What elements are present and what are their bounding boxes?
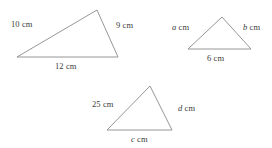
triangle-3-right-side-unit: cm — [182, 103, 195, 113]
triangle-2-left-side-label: a cm — [172, 22, 189, 32]
triangle-3-outline — [107, 86, 172, 130]
triangle-2-left-side-unit: cm — [176, 22, 189, 32]
triangle-3-base-label: c cm — [131, 134, 148, 144]
triangle-2-right-side-label: b cm — [243, 22, 260, 32]
triangle-1-right-side-label: 9 cm — [116, 20, 133, 30]
triangles-svg — [0, 0, 272, 148]
triangle-1-left-side-label: 10 cm — [11, 19, 33, 29]
figure-canvas: 10 cm 9 cm 12 cm a cm b cm 6 cm 25 cm d … — [0, 0, 272, 148]
triangle-2-base-label: 6 cm — [207, 53, 224, 63]
triangle-2-right-side-unit: cm — [247, 22, 260, 32]
triangle-3-base-unit: cm — [135, 134, 148, 144]
triangle-1-base-label: 12 cm — [55, 61, 77, 71]
triangle-1-outline — [17, 10, 118, 57]
triangle-3-left-side-label: 25 cm — [92, 99, 114, 109]
triangle-3-right-side-label: d cm — [178, 103, 195, 113]
triangle-2-outline — [188, 17, 251, 49]
